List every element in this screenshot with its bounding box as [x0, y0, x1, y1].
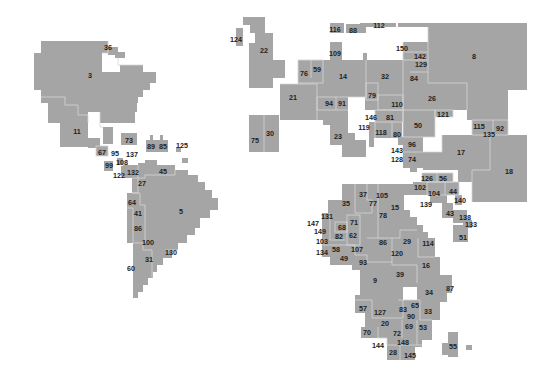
region-label: 67 — [98, 148, 106, 157]
region-label: 79 — [368, 91, 376, 100]
region-label: 135 — [483, 130, 495, 139]
region-label: 55 — [449, 342, 457, 351]
region-label: 78 — [379, 211, 387, 220]
land-block — [369, 138, 374, 147]
region-label: 51 — [459, 233, 467, 242]
land-block — [150, 135, 153, 140]
region-label: 122 — [113, 171, 125, 180]
region-label: 145 — [404, 351, 416, 360]
region-label: 57 — [359, 304, 367, 313]
region-label: 144 — [372, 341, 384, 350]
world-cartogram: 3631173898512567951379910812213245276441… — [0, 0, 555, 383]
land-block — [323, 120, 348, 125]
region-label: 5 — [179, 207, 183, 216]
lake-gap — [403, 287, 417, 300]
region-label: 33 — [424, 307, 432, 316]
region-label: 56 — [439, 174, 447, 183]
region-label: 80 — [393, 130, 401, 139]
region-label: 64 — [128, 198, 136, 207]
region-label: 87 — [446, 284, 454, 293]
region-label: 73 — [125, 136, 133, 145]
land-block — [342, 133, 355, 157]
landmass-europe-asia — [236, 17, 527, 202]
region-label: 17 — [457, 148, 465, 157]
region-label: 132 — [127, 168, 139, 177]
region-label: 28 — [389, 348, 397, 357]
region-label: 50 — [414, 121, 422, 130]
region-label: 21 — [289, 93, 297, 102]
region-label: 30 — [266, 129, 274, 138]
region-label: 81 — [386, 113, 394, 122]
region-label: 34 — [425, 288, 433, 297]
land-block — [442, 135, 490, 170]
land-block — [398, 23, 428, 27]
region-label: 26 — [428, 94, 436, 103]
land-block — [102, 72, 156, 83]
region-label: 41 — [134, 209, 142, 218]
land-block — [466, 345, 472, 350]
region-label: 118 — [375, 128, 387, 137]
land-block — [423, 152, 442, 170]
region-label: 70 — [363, 328, 371, 337]
land-block — [115, 52, 125, 58]
region-label: 146 — [365, 113, 377, 122]
land-block — [48, 112, 88, 123]
region-label: 125 — [176, 141, 188, 150]
region-label: 83 — [399, 305, 407, 314]
region-label: 39 — [396, 270, 404, 279]
region-label: 8 — [472, 52, 476, 61]
land-block — [322, 184, 452, 360]
region-label: 110 — [391, 100, 403, 109]
border-line — [118, 58, 143, 65]
region-label: 75 — [251, 136, 259, 145]
land-block — [273, 60, 285, 78]
region-label: 96 — [408, 140, 416, 149]
region-label: 29 — [403, 237, 411, 246]
region-label: 150 — [396, 44, 408, 53]
land-block — [41, 97, 138, 103]
land-block — [41, 41, 108, 53]
land-block — [41, 90, 143, 97]
region-label: 27 — [138, 179, 146, 188]
region-label: 16 — [422, 261, 430, 270]
region-label: 105 — [376, 191, 388, 200]
region-label: 36 — [104, 43, 112, 52]
region-label: 107 — [351, 245, 363, 254]
region-label: 82 — [335, 232, 343, 241]
border-line — [423, 135, 442, 152]
region-label: 85 — [159, 142, 167, 151]
region-label: 124 — [230, 35, 242, 44]
region-label: 32 — [381, 72, 389, 81]
region-label: 126 — [421, 174, 433, 183]
region-label: 92 — [496, 124, 504, 133]
map-canvas: 3631173898512567951379910812213245276441… — [0, 0, 555, 383]
region-label: 143 — [391, 146, 403, 155]
region-label: 88 — [349, 26, 357, 35]
region-label: 76 — [300, 69, 308, 78]
region-label: 53 — [419, 323, 427, 332]
region-label: 95 — [111, 149, 119, 158]
region-label: 18 — [505, 167, 513, 176]
region-label: 100 — [142, 238, 154, 247]
region-label: 104 — [428, 189, 440, 198]
region-label: 120 — [391, 249, 403, 258]
region-label: 3 — [88, 71, 92, 80]
land-block — [160, 135, 163, 140]
region-label: 134 — [316, 248, 328, 257]
region-label: 11 — [73, 127, 81, 136]
region-label: 15 — [391, 203, 399, 212]
region-label: 149 — [314, 227, 326, 236]
region-label: 62 — [349, 231, 357, 240]
land-block — [472, 170, 490, 202]
region-label: 99 — [105, 161, 113, 170]
region-label: 131 — [321, 212, 333, 221]
region-label: 94 — [325, 99, 333, 108]
region-label: 72 — [393, 329, 401, 338]
region-label: 93 — [359, 258, 367, 267]
region-label: 44 — [449, 187, 457, 196]
region-label: 23 — [334, 132, 342, 141]
region-label: 109 — [329, 49, 341, 58]
region-label: 69 — [405, 322, 413, 331]
region-label: 84 — [410, 74, 418, 83]
region-label: 148 — [397, 338, 409, 347]
